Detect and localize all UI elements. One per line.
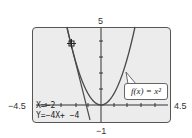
trace-cursor-icon [67,39,76,48]
trace-y-readout: Y=−4X+ −4 [36,111,79,120]
trace-x-readout: X=−2 [36,101,55,110]
function-callout: f(x) = x² [124,83,168,100]
tangent-line [67,28,90,120]
graph-plot [0,0,192,138]
